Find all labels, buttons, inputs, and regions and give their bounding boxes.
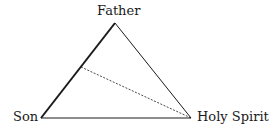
label-son: Son bbox=[13, 110, 38, 123]
dashed-edge-to-holy-spirit bbox=[81, 67, 191, 118]
label-holy-spirit: Holy Spirit bbox=[197, 110, 269, 123]
edge-son-father bbox=[41, 23, 115, 118]
edge-father-holy-spirit bbox=[115, 23, 191, 118]
label-father: Father bbox=[97, 4, 140, 17]
